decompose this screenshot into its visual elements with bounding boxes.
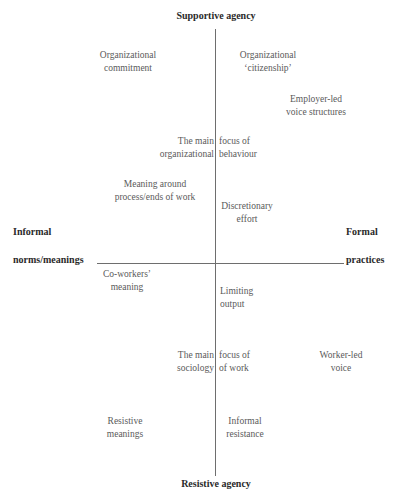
label-discretionary-effort: Discretionary effort [221,200,273,226]
label-sow-focus-right: focus of of work [219,349,250,375]
label-line: Organizational [100,49,156,62]
vertical-axis-line [215,29,216,476]
label-line: voice [320,362,363,375]
label-line: Worker-led [320,349,363,362]
label-line: Employer-led [286,93,346,106]
label-line: sociology [177,362,214,375]
label-organizational-citizenship: Organizational ‘citizenship’ [240,49,296,75]
label-line: commitment [100,62,156,75]
label-line: effort [221,213,273,226]
axis-label-right-line2: practices [346,246,384,274]
axis-label-left: Informal norms/meanings [13,218,84,274]
label-limiting-output: Limiting output [220,285,253,311]
label-line: Limiting [220,285,253,298]
label-ob-focus-left: The main organizational [160,135,214,161]
label-line: process/ends of work [115,191,196,204]
label-line: Discretionary [221,200,273,213]
label-worker-led-voice: Worker-led voice [320,349,363,375]
axis-label-right: Formal practices [346,218,384,274]
label-line: focus of [219,349,250,362]
label-coworkers-meaning: Co-workers’ meaning [103,268,151,294]
label-line: behaviour [219,148,257,161]
label-ob-focus-right: focus of behaviour [219,135,257,161]
label-line: The main [177,349,214,362]
axis-label-bottom: Resistive agency [181,478,251,489]
label-line: ‘citizenship’ [240,62,296,75]
axis-label-left-line1: Informal [13,218,84,246]
label-line: meanings [107,428,143,441]
label-line: organizational [160,148,214,161]
axis-label-right-line1: Formal [346,218,384,246]
label-line: focus of [219,135,257,148]
label-line: Co-workers’ [103,268,151,281]
label-informal-resistance: Informal resistance [226,415,263,441]
label-employer-led-voice: Employer-led voice structures [286,93,346,119]
axis-label-top: Supportive agency [176,10,255,21]
label-line: of work [219,362,250,375]
label-line: Organizational [240,49,296,62]
agency-quadrant-diagram: Supportive agency Resistive agency Infor… [0,0,397,498]
label-line: voice structures [286,106,346,119]
label-sow-focus-left: The main sociology [177,349,214,375]
label-line: Informal [226,415,263,428]
label-line: Resistive [107,415,143,428]
label-organizational-commitment: Organizational commitment [100,49,156,75]
label-resistive-meanings: Resistive meanings [107,415,143,441]
axis-label-left-line2: norms/meanings [13,246,84,274]
label-line: meaning [103,281,151,294]
label-line: output [220,298,253,311]
horizontal-axis-line [97,263,344,264]
label-meaning-around-process: Meaning around process/ends of work [115,178,196,204]
label-line: The main [160,135,214,148]
label-line: resistance [226,428,263,441]
label-line: Meaning around [115,178,196,191]
